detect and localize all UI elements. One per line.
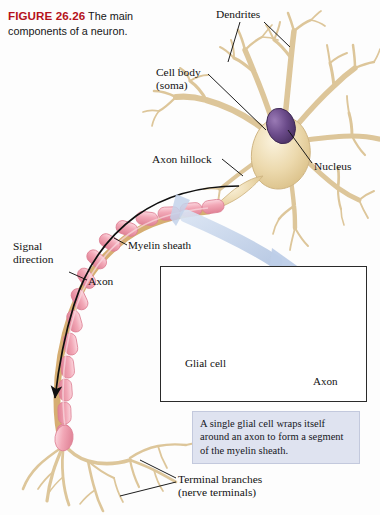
callout-box: A single glial cell wraps itself around … — [192, 411, 360, 464]
label-axon-inset: Axon — [313, 375, 338, 388]
label-glial-cell: Glial cell — [185, 357, 226, 370]
label-signal-direction: Signal direction — [13, 240, 54, 267]
label-terminal-branches: Terminal branches (nerve terminals) — [178, 473, 262, 500]
label-nucleus: Nucleus — [314, 160, 351, 173]
label-myelin-sheath: Myelin sheath — [128, 239, 191, 252]
label-axon-hillock: Axon hillock — [152, 153, 212, 166]
label-dendrites: Dendrites — [216, 8, 260, 21]
label-axon: Axon — [88, 275, 113, 288]
neuron-figure: FIGURE 26.26 The main components of a ne… — [0, 0, 380, 515]
label-cell-body: Cell body (soma) — [156, 66, 201, 93]
